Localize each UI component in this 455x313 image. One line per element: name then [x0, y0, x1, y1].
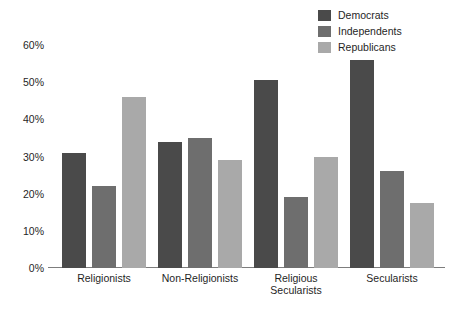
bar-group-bars: [350, 45, 434, 268]
bar[interactable]: [410, 203, 434, 268]
bar[interactable]: [254, 80, 278, 268]
y-axis-tick-label: 50%: [2, 77, 44, 88]
bar[interactable]: [158, 142, 182, 268]
bar[interactable]: [380, 171, 404, 268]
bar-chart: DemocratsIndependentsRepublicans 60%50%4…: [0, 0, 455, 313]
bar-group: [62, 45, 146, 268]
y-axis-tick-label: 20%: [2, 188, 44, 199]
legend-label: Independents: [338, 26, 402, 37]
bar-group-bars: [62, 45, 146, 268]
x-axis-category-label: Secularists: [336, 272, 448, 284]
y-axis: 60%50%40%30%20%10%0%: [0, 45, 44, 268]
bar[interactable]: [92, 186, 116, 268]
bar-group: [254, 45, 338, 268]
plot-area: [48, 45, 445, 268]
bar[interactable]: [218, 160, 242, 268]
bar[interactable]: [188, 138, 212, 268]
legend-swatch-icon: [318, 26, 331, 37]
bar-group-bars: [158, 45, 242, 268]
y-axis-tick-label: 0%: [2, 263, 44, 274]
legend-swatch-icon: [318, 10, 331, 21]
y-axis-tick-label: 10%: [2, 225, 44, 236]
bar-group-bars: [254, 45, 338, 268]
y-axis-tick-label: 60%: [2, 40, 44, 51]
bar[interactable]: [284, 197, 308, 268]
bar-group: [350, 45, 434, 268]
bar[interactable]: [314, 157, 338, 269]
y-axis-tick-label: 30%: [2, 151, 44, 162]
bar[interactable]: [350, 60, 374, 268]
legend-item[interactable]: Democrats: [318, 9, 402, 22]
bar[interactable]: [62, 153, 86, 268]
bar-group: [158, 45, 242, 268]
bar[interactable]: [122, 97, 146, 268]
legend-label: Democrats: [338, 10, 389, 21]
legend-item[interactable]: Independents: [318, 25, 402, 38]
y-axis-tick-label: 40%: [2, 114, 44, 125]
